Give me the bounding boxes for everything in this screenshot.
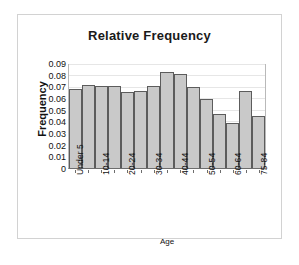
y-tick-label: 0.09 [32, 59, 66, 69]
x-tick: 10-14 [94, 170, 107, 240]
x-tick [108, 170, 121, 240]
y-tick-label: 0.01 [32, 152, 66, 162]
y-tick-label: 0.06 [32, 94, 66, 104]
x-tick: 75-84 [253, 170, 266, 240]
y-tick-label: 0.02 [32, 141, 66, 151]
tick-mark [88, 170, 89, 173]
y-tick-label: 0.08 [32, 71, 66, 81]
tick-mark [114, 170, 115, 173]
tick-mark [167, 170, 168, 173]
x-tick: 40-44 [174, 170, 187, 240]
x-tick [81, 170, 94, 240]
tick-mark [141, 170, 142, 173]
tick-mark [246, 170, 247, 173]
x-tick [160, 170, 173, 240]
x-tick: 30-34 [147, 170, 160, 240]
chart-container: Relative Frequency Frequency 0.090.080.0… [17, 14, 282, 239]
y-tick-label: 0 [32, 164, 66, 174]
tick-mark [220, 170, 221, 173]
x-tick [187, 170, 200, 240]
x-axis-title: Age [68, 237, 266, 246]
x-tick: 20-24 [121, 170, 134, 240]
x-tick [240, 170, 253, 240]
x-tick: 50-54 [200, 170, 213, 240]
y-tick-label: 0.04 [32, 117, 66, 127]
x-axis-tick-labels: Under 510-1420-2430-3440-4450-5460-6475-… [68, 170, 266, 240]
y-axis-tick-labels: 0.090.080.070.060.050.040.030.020.010 [32, 58, 66, 175]
y-tick-label: 0.07 [32, 82, 66, 92]
y-tick-label: 0.05 [32, 106, 66, 116]
x-tick [213, 170, 226, 240]
x-tick-label: 75-84 [259, 153, 269, 175]
x-tick: 60-64 [226, 170, 239, 240]
y-tick-label: 0.03 [32, 129, 66, 139]
chart-title: Relative Frequency [18, 28, 281, 43]
x-tick: Under 5 [68, 170, 81, 240]
tick-mark [193, 170, 194, 173]
x-tick [134, 170, 147, 240]
